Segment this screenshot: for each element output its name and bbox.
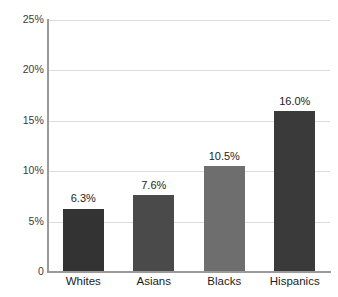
bar-whites [63, 209, 104, 273]
gridline-25 [48, 20, 330, 21]
y-tick-label-25pct: 25% [4, 13, 44, 25]
x-axis-line [47, 271, 331, 273]
y-axis-tick-labels: 05%10%15%20%25% [0, 0, 44, 297]
y-axis-line [47, 19, 49, 273]
bar-value-whites: 6.3% [53, 192, 113, 204]
gridline-20 [48, 70, 330, 71]
y-tick-label-0: 0 [4, 265, 44, 277]
bar-chart: 05%10%15%20%25% 6.3%7.6%10.5%16.0% White… [0, 0, 338, 297]
category-label-whites: Whites [43, 275, 123, 287]
bar-value-blacks: 10.5% [194, 150, 254, 162]
y-tick-label-15pct: 15% [4, 114, 44, 126]
y-tick-label-10pct: 10% [4, 164, 44, 176]
category-label-blacks: Blacks [184, 275, 264, 287]
plot-area [48, 20, 330, 272]
category-label-asians: Asians [114, 275, 194, 287]
y-tick-label-5pct: 5% [4, 215, 44, 227]
category-label-hispanics: Hispanics [255, 275, 335, 287]
bar-value-hispanics: 16.0% [265, 95, 325, 107]
bar-blacks [204, 166, 245, 272]
bar-value-asians: 7.6% [124, 179, 184, 191]
bar-asians [133, 195, 174, 272]
bar-hispanics [274, 111, 315, 272]
y-tick-label-20pct: 20% [4, 63, 44, 75]
